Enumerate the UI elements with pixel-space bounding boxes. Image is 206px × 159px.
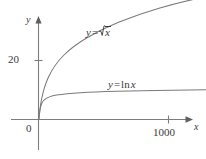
y-axis-label: y — [26, 15, 30, 25]
x-axis-label: x — [194, 122, 198, 132]
figure-container: y x 0 20 1000 y=x y=lnx — [0, 0, 206, 159]
radical-sign-icon — [99, 25, 105, 36]
curve-label-sqrt-x: y=x — [86, 25, 111, 38]
radical-group: x — [99, 25, 111, 38]
sqrt-label-equals: = — [91, 26, 99, 38]
ln-label-function: ln — [121, 78, 131, 90]
sqrt-label-radicand: x — [105, 26, 111, 38]
origin-label: 0 — [26, 123, 32, 134]
x-axis-tick-label-1000: 1000 — [153, 127, 175, 138]
curve-sqrt-x — [39, 0, 206, 119]
y-axis-arrowhead — [35, 16, 41, 24]
curve-ln-x — [39, 90, 206, 120]
x-axis-arrowhead — [186, 116, 194, 122]
curve-label-ln-x: y=lnx — [108, 79, 136, 90]
ln-label-equals: = — [113, 78, 121, 90]
ln-label-argument: x — [131, 78, 136, 90]
plot-canvas — [0, 0, 206, 159]
y-axis-tick-label-20: 20 — [8, 54, 19, 65]
